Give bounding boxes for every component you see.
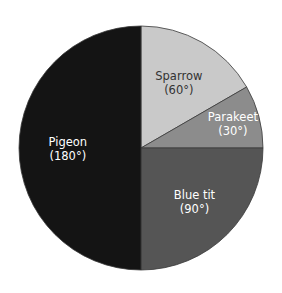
slice-label: Pigeon(180°) bbox=[49, 135, 88, 163]
pie-chart: Sparrow(60°)Parakeet(30°)Blue tit(90°)Pi… bbox=[0, 0, 282, 293]
